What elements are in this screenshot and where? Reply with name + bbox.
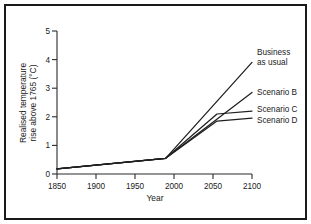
y-axis-title-line2: rise above 1765 (°C) [28, 64, 38, 141]
y-tick-label-4: 4 [45, 56, 50, 65]
y-tick-label-0: 0 [45, 170, 50, 179]
series-label-business-as-usual-line1: Business [257, 48, 290, 57]
y-axis-title-line1: Realised temperature [18, 63, 28, 143]
x-tick-label-1850: 1850 [48, 182, 67, 191]
line-chart: 0 1 2 3 4 5 1850 1900 1950 2000 2050 210… [0, 0, 311, 224]
series-label-scenario-c: Scenario C [257, 105, 298, 114]
series-line-scenario-c [57, 111, 252, 169]
series-label-scenario-d: Scenario D [257, 116, 298, 125]
series-line-scenario-d [57, 118, 252, 169]
series-line-scenario-b [57, 93, 252, 169]
y-tick-label-5: 5 [45, 27, 50, 36]
x-tick-label-1900: 1900 [87, 182, 106, 191]
y-tick-label-3: 3 [45, 84, 50, 93]
x-tick-label-2050: 2050 [204, 182, 223, 191]
x-tick-label-2100: 2100 [243, 182, 262, 191]
series-line-business-as-usual [57, 62, 252, 168]
figure-root: 0 1 2 3 4 5 1850 1900 1950 2000 2050 210… [0, 0, 311, 224]
series-label-business-as-usual-line2: as usual [257, 58, 288, 67]
y-tick-label-1: 1 [45, 141, 50, 150]
x-tick-label-1950: 1950 [126, 182, 145, 191]
x-tick-label-2000: 2000 [165, 182, 184, 191]
y-tick-label-2: 2 [45, 113, 50, 122]
series-label-scenario-b: Scenario B [257, 88, 298, 97]
x-axis-title: Year [147, 193, 164, 203]
